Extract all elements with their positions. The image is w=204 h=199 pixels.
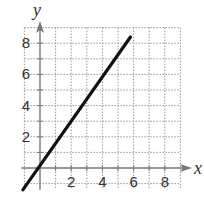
y-axis-label: y bbox=[31, 0, 41, 20]
x-axis-label: x bbox=[193, 158, 202, 178]
x-tick-label: 6 bbox=[129, 173, 137, 190]
line-chart: 24682468 x y bbox=[0, 0, 204, 199]
x-tick-label: 2 bbox=[67, 173, 75, 190]
data-series bbox=[23, 37, 131, 190]
grid bbox=[24, 28, 180, 189]
data-line bbox=[23, 37, 131, 190]
y-tick-label: 8 bbox=[22, 34, 30, 51]
tick-labels: 24682468 bbox=[22, 34, 169, 190]
y-tick-label: 4 bbox=[22, 97, 30, 114]
y-tick-label: 6 bbox=[22, 65, 30, 82]
x-tick-label: 4 bbox=[98, 173, 106, 190]
y-tick-label: 2 bbox=[22, 128, 30, 145]
x-tick-label: 8 bbox=[161, 173, 169, 190]
